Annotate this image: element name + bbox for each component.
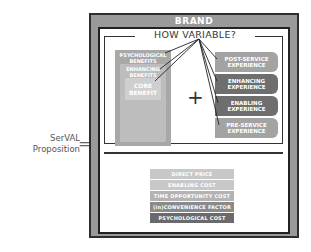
proposition-label: Proposition bbox=[14, 144, 80, 155]
cost-inconvenience: (in)CONVENIENCE FACTOR bbox=[150, 202, 234, 212]
arrow-to-psych bbox=[165, 39, 199, 53]
cost-psychological: PSYCHOLOGICAL COST bbox=[150, 213, 234, 223]
brand-inner-panel: HOW VARIABLE? PSYCHOLOGICAL BENEFITS ENH… bbox=[98, 27, 290, 234]
arrow-to-enabling bbox=[199, 39, 218, 103]
benefits-experience-box: HOW VARIABLE? PSYCHOLOGICAL BENEFITS ENH… bbox=[104, 36, 283, 144]
cost-time-opportunity: TIME OPPORTUNITY COST bbox=[150, 191, 234, 201]
arrow-to-enhancing bbox=[160, 39, 199, 69]
serval-label: SerVAL bbox=[14, 133, 80, 144]
arrow-to-core bbox=[155, 39, 199, 81]
arrow-to-enh-exp bbox=[199, 39, 217, 81]
divider-line bbox=[104, 152, 283, 154]
brand-title: BRAND bbox=[91, 15, 297, 27]
serval-proposition-label: SerVAL Proposition bbox=[14, 133, 80, 155]
arrow-to-pre bbox=[199, 39, 219, 125]
cost-enabling: ENABLING COST bbox=[150, 180, 234, 190]
brand-frame: BRAND HOW VARIABLE? PSYCHOLOGICAL BENEFI… bbox=[89, 13, 299, 238]
variability-arrows bbox=[105, 37, 284, 145]
cost-direct-price: DIRECT PRICE bbox=[150, 169, 234, 179]
